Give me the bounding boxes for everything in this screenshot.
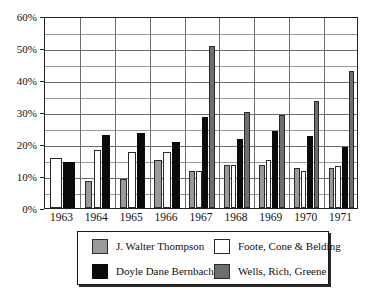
- bar-ddb-1966: [172, 142, 180, 208]
- y-axis-tick-label: 40%: [17, 76, 37, 87]
- legend-swatch-jwt: [92, 239, 108, 254]
- bar-wrg-1970: [314, 101, 320, 208]
- bar-wrg-1971: [349, 71, 355, 208]
- bar-fcb-1964: [94, 150, 102, 208]
- legend-label-ddb: Doyle Dane Bernbach: [116, 266, 214, 277]
- legend-label-fcb: Foote, Cone & Belding: [238, 241, 341, 252]
- legend-swatch-fcb: [214, 239, 230, 254]
- x-axis-tick-label: 1967: [190, 212, 213, 224]
- bar-fcb-1971: [335, 166, 341, 208]
- y-axis-tick-label: 20%: [17, 140, 37, 151]
- y-axis-tick-mark: [40, 209, 44, 210]
- legend-label-wrg: Wells, Rich, Greene: [238, 266, 326, 277]
- x-axis: 196319641965196619671968196919701971: [44, 212, 358, 230]
- bar-ddb-1963: [63, 162, 74, 208]
- bar-jwt-1968: [224, 165, 230, 208]
- bar-fcb-1963: [50, 158, 61, 208]
- bar-ddb-1970: [307, 136, 313, 208]
- bars-layer: [45, 18, 357, 208]
- bar-jwt-1970: [294, 168, 300, 208]
- bar-jwt-1965: [120, 179, 128, 208]
- legend-swatch-ddb: [92, 264, 108, 279]
- x-axis-tick-label: 1970: [294, 212, 317, 224]
- legend-row: Doyle Dane BernbachWells, Rich, Greene: [78, 260, 328, 282]
- bar-ddb-1969: [272, 131, 278, 208]
- bar-ddb-1964: [102, 135, 110, 208]
- legend-swatch-wrg: [214, 264, 230, 279]
- bar-ddb-1967: [202, 117, 208, 208]
- bar-fcb-1969: [266, 160, 272, 208]
- bar-jwt-1966: [154, 160, 162, 208]
- y-axis-tick-label: 10%: [17, 172, 37, 183]
- x-axis-tick-label: 1965: [120, 212, 143, 224]
- bar-wrg-1969: [279, 115, 285, 208]
- y-axis-tick-label: 50%: [17, 44, 37, 55]
- bar-jwt-1971: [329, 168, 335, 208]
- x-axis-tick-label: 1966: [155, 212, 178, 224]
- bar-ddb-1968: [237, 139, 243, 208]
- y-axis: 0%10%20%30%40%50%60%: [0, 0, 44, 226]
- bar-ddb-1971: [342, 147, 348, 208]
- bar-fcb-1965: [128, 152, 136, 208]
- bar-chart: 0%10%20%30%40%50%60% 1963196419651966196…: [0, 0, 370, 300]
- bar-fcb-1967: [196, 171, 202, 208]
- legend-item-wrg[interactable]: Wells, Rich, Greene: [214, 264, 326, 279]
- bar-ddb-1965: [137, 133, 145, 208]
- y-axis-tick-label: 60%: [17, 12, 37, 23]
- legend-row: J. Walter ThompsonFoote, Cone & Belding: [78, 235, 328, 257]
- bar-fcb-1968: [231, 165, 237, 208]
- bar-jwt-1969: [259, 165, 265, 208]
- bar-jwt-1967: [189, 171, 195, 208]
- y-axis-tick-label: 30%: [17, 108, 37, 119]
- legend-item-fcb[interactable]: Foote, Cone & Belding: [214, 239, 341, 254]
- legend-label-jwt: J. Walter Thompson: [116, 241, 204, 252]
- plot-area: [44, 17, 358, 209]
- x-axis-tick-label: 1963: [50, 212, 73, 224]
- bar-wrg-1967: [209, 46, 215, 208]
- bar-wrg-1968: [244, 112, 250, 208]
- x-axis-tick-label: 1968: [224, 212, 247, 224]
- bar-fcb-1970: [301, 171, 307, 208]
- x-axis-tick-label: 1969: [259, 212, 282, 224]
- bar-fcb-1966: [163, 152, 171, 208]
- legend-item-jwt[interactable]: J. Walter Thompson: [92, 239, 204, 254]
- x-axis-tick-label: 1971: [329, 212, 352, 224]
- chart-legend: J. Walter ThompsonFoote, Cone & Belding …: [77, 231, 329, 285]
- legend-item-ddb[interactable]: Doyle Dane Bernbach: [92, 264, 214, 279]
- y-axis-tick-label: 0%: [22, 204, 37, 215]
- bar-jwt-1964: [85, 181, 93, 208]
- x-axis-tick-label: 1964: [85, 212, 108, 224]
